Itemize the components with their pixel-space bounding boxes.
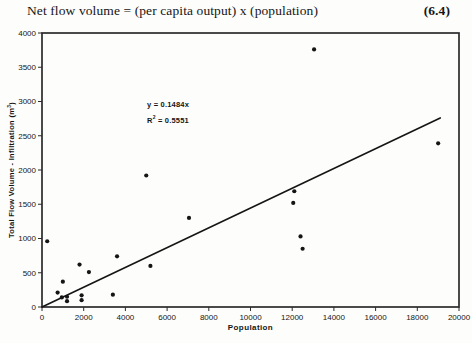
data-point	[60, 295, 64, 299]
x-tick-label: 14000	[323, 313, 346, 322]
plot-frame	[42, 33, 459, 307]
y-tick-label: 1000	[18, 234, 36, 243]
trendline	[42, 118, 440, 307]
x-axis-label: Population	[42, 323, 459, 332]
document-page: Net flow volume = (per capita output) x …	[0, 0, 472, 343]
data-point	[80, 293, 84, 297]
data-point	[61, 280, 65, 284]
data-point	[144, 173, 148, 177]
data-point	[291, 201, 295, 205]
data-point	[436, 141, 440, 145]
x-tick-label: 6000	[158, 313, 176, 322]
data-point	[292, 189, 296, 193]
y-axis-label: Total Flow Volume - Infiltration (m3)	[6, 102, 17, 238]
data-point	[56, 291, 60, 295]
data-point	[187, 216, 191, 220]
data-point	[45, 239, 49, 243]
r-squared-value: R2 = 0.5551	[147, 111, 189, 127]
scatter-chart: 0500100015002000250030003500400002000400…	[0, 0, 472, 343]
data-point	[65, 299, 69, 303]
x-tick-label: 4000	[117, 313, 135, 322]
trendline-annotation: y = 0.1484x R2 = 0.5551	[147, 99, 189, 127]
x-tick-label: 12000	[281, 313, 304, 322]
x-tick-label: 16000	[364, 313, 387, 322]
data-point	[77, 262, 81, 266]
x-tick-label: 0	[40, 313, 45, 322]
y-tick-label: 500	[23, 269, 37, 278]
data-point	[87, 270, 91, 274]
data-point	[298, 234, 302, 238]
y-tick-label: 2500	[18, 132, 36, 141]
data-point	[80, 298, 84, 302]
y-tick-label: 4000	[18, 29, 36, 38]
y-tick-label: 1500	[18, 200, 36, 209]
x-tick-label: 20000	[448, 313, 471, 322]
data-point	[115, 254, 119, 258]
x-tick-label: 8000	[200, 313, 218, 322]
x-tick-label: 18000	[406, 313, 429, 322]
y-tick-label: 0	[32, 303, 37, 312]
x-tick-label: 2000	[75, 313, 93, 322]
data-point	[148, 264, 152, 268]
y-tick-label: 3000	[18, 97, 36, 106]
trendline-equation: y = 0.1484x	[147, 99, 189, 111]
x-tick-label: 10000	[239, 313, 262, 322]
data-point	[301, 247, 305, 251]
data-point	[65, 295, 69, 299]
data-point	[111, 293, 115, 297]
y-tick-label: 2000	[18, 166, 36, 175]
y-tick-label: 3500	[18, 63, 36, 72]
data-point	[312, 47, 316, 51]
